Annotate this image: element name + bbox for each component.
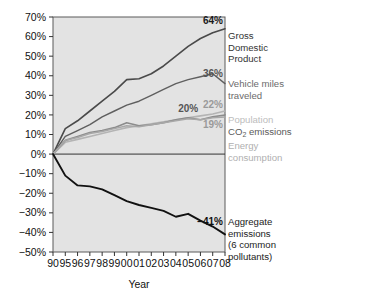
legend-item-label: Gross <box>228 30 370 42</box>
x-tick-label: 06 <box>195 257 207 269</box>
legend-panel: GrossDomesticProductVehicle milestravele… <box>228 14 370 274</box>
series-end-value: 36% <box>203 68 223 79</box>
legend-item-label: Aggregate <box>228 216 370 228</box>
y-tick-label: −40% <box>19 226 46 238</box>
legend-item-label: emissions <box>228 228 370 240</box>
legend-item-label: Domestic <box>228 42 370 54</box>
x-tick-label: 99 <box>109 257 121 269</box>
legend-item-label: Energy <box>228 140 370 152</box>
legend-item-label: traveled <box>228 90 370 102</box>
legend-item: Aggregateemissions(6 commonpollutants) <box>228 216 370 262</box>
x-tick-label: 03 <box>158 257 170 269</box>
series-end-value: 22% <box>203 99 223 110</box>
legend-item-label: CO2 emissions <box>228 126 370 141</box>
y-tick-label: 70% <box>25 11 46 23</box>
y-tick-label: 60% <box>25 30 46 42</box>
y-tick-label: 10% <box>25 128 46 140</box>
y-tick-label: −50% <box>19 246 46 258</box>
y-tick-label: −10% <box>19 167 46 179</box>
legend-item-label: Vehicle miles <box>228 78 370 90</box>
x-tick-label: 01 <box>133 257 145 269</box>
legend-item-label: Product <box>228 53 370 65</box>
legend-item-label: Population <box>228 114 370 126</box>
y-tick-label: −30% <box>19 206 46 218</box>
x-tick-label: 97 <box>84 257 96 269</box>
y-tick-label: 20% <box>25 109 46 121</box>
x-tick-label: 00 <box>121 257 133 269</box>
y-tick-label: 0% <box>31 148 46 160</box>
y-tick-label: −20% <box>19 187 46 199</box>
legend-item-label: consumption <box>228 152 370 164</box>
x-tick-label: 05 <box>182 257 194 269</box>
x-tick-label: 90 <box>47 257 59 269</box>
legend-item: CO2 emissions <box>228 126 370 141</box>
legend-item: Population <box>228 114 370 126</box>
legend-item: Energyconsumption <box>228 140 370 163</box>
legend-item-label: (6 common <box>228 239 370 251</box>
y-tick-label: 40% <box>25 69 46 81</box>
chart-root: 70%60%50%40%30%20%10%0%−10%−20%−30%−40%−… <box>0 0 370 298</box>
legend-item: GrossDomesticProduct <box>228 30 370 65</box>
co2-inline-value: 20% <box>178 103 198 114</box>
x-axis-title: Year <box>128 278 150 290</box>
series-end-value: −41% <box>197 216 223 227</box>
series-end-value: 64% <box>203 15 223 26</box>
x-tick-label: 96 <box>72 257 84 269</box>
x-tick-label: 07 <box>207 257 219 269</box>
x-tick-label: 04 <box>170 257 182 269</box>
y-tick-label: 50% <box>25 50 46 62</box>
x-tick-label: 02 <box>145 257 157 269</box>
legend-item: Vehicle milestraveled <box>228 78 370 101</box>
series-end-value: 19% <box>203 119 223 130</box>
x-tick-label: 95 <box>59 257 71 269</box>
y-tick-label: 30% <box>25 89 46 101</box>
legend-item-label: pollutants) <box>228 251 370 263</box>
x-tick-label: 98 <box>96 257 108 269</box>
